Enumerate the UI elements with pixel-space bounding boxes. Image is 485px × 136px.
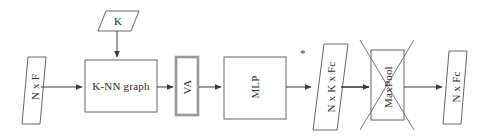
node-shape-input (22, 57, 46, 124)
asterisk-text: * (300, 47, 306, 59)
node-shape-va (176, 57, 198, 115)
node-shape-output (443, 51, 467, 124)
node-shape-knn-graph (85, 60, 157, 112)
diagram-canvas: N x F K K-NN graph VA MLP N x K x Fc Max… (0, 0, 485, 136)
asterisk-annotation: * (300, 48, 306, 59)
node-shape-mlp (224, 57, 286, 119)
diagram-vector-layer (0, 0, 485, 136)
node-shape-k (98, 11, 139, 31)
